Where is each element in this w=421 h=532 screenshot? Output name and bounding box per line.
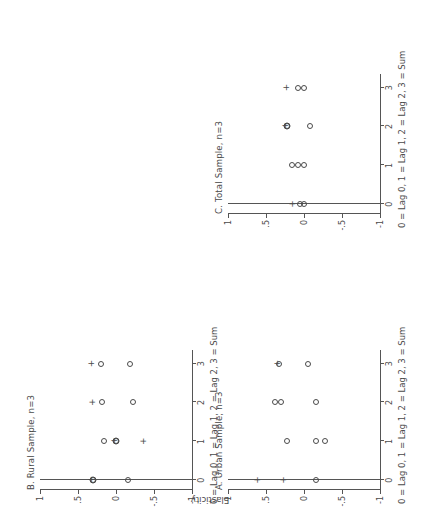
x-tick xyxy=(380,363,384,364)
x-tick xyxy=(192,479,196,480)
panel-title-total: C. Total Sample, n=3 xyxy=(214,121,224,214)
zero-reference-line xyxy=(40,479,192,480)
data-point-circle xyxy=(295,162,301,168)
x-axis-caption: 0 = Lag 0, 1 = Lag 1, 2 = Lag 2, 3 = Sum xyxy=(397,51,407,228)
panel-title-rural: B. Rural Sample, n=3 xyxy=(26,395,36,490)
y-tick-label: -.5 xyxy=(338,220,347,244)
y-tick-label: 0 xyxy=(300,220,309,244)
data-point-circleplus xyxy=(284,123,291,130)
x-tick-label: 3 xyxy=(385,361,394,366)
figure-rotation-wrapper: Elasticity A. Urban Sample, n=3 01231.50… xyxy=(0,0,421,532)
y-tick-label: .5 xyxy=(262,220,271,244)
x-tick-label: 2 xyxy=(385,124,394,129)
data-point-plus xyxy=(87,360,94,367)
data-point-circle xyxy=(322,438,328,444)
data-point-circle xyxy=(301,85,307,91)
x-tick-label: 3 xyxy=(385,85,394,90)
x-tick-label: 1 xyxy=(197,439,206,444)
y-tick-label: -.5 xyxy=(338,496,347,520)
x-tick xyxy=(192,440,196,441)
x-tick-label: 2 xyxy=(385,400,394,405)
x-tick-label: 1 xyxy=(385,439,394,444)
data-point-plus xyxy=(253,477,260,484)
data-point-plus xyxy=(282,84,289,91)
y-tick xyxy=(266,490,267,494)
plot-area-urban: 01231.50-.5-10 = Lag 0, 1 = Lag 1, 2 = L… xyxy=(228,350,380,490)
y-tick xyxy=(192,490,193,494)
x-tick-label: 0 xyxy=(385,202,394,207)
y-tick xyxy=(266,214,267,218)
x-tick xyxy=(192,363,196,364)
y-tick xyxy=(154,490,155,494)
x-tick xyxy=(380,164,384,165)
y-tick xyxy=(380,490,381,494)
y-tick xyxy=(342,214,343,218)
y-tick-label: .5 xyxy=(262,496,271,520)
data-point-circle xyxy=(307,124,313,130)
data-point-circle xyxy=(313,477,319,483)
y-tick-label: -1 xyxy=(376,220,385,244)
data-point-circleplus xyxy=(113,438,120,445)
x-axis-line xyxy=(380,74,381,214)
y-tick xyxy=(40,490,41,494)
data-point-circle xyxy=(305,361,311,367)
y-tick-label: .5 xyxy=(74,496,83,520)
x-tick xyxy=(380,87,384,88)
data-point-circle xyxy=(313,438,319,444)
y-tick xyxy=(304,490,305,494)
x-tick-label: 0 xyxy=(197,478,206,483)
y-tick xyxy=(228,214,229,218)
data-point-plus xyxy=(273,360,280,367)
data-point-plus xyxy=(89,399,96,406)
x-tick xyxy=(380,126,384,127)
x-tick-label: 0 xyxy=(385,478,394,483)
data-point-circle xyxy=(301,162,307,168)
data-point-circle xyxy=(297,201,303,207)
x-tick-label: 2 xyxy=(197,400,206,405)
y-tick-label: -1 xyxy=(376,496,385,520)
x-axis-caption: 0 = Lag 0, 1 = Lag 1, 2 = Lag 2, 3 = Sum xyxy=(209,327,219,504)
panel-total-sample: C. Total Sample, n=3 01231.50-.5-10 = La… xyxy=(228,74,380,214)
data-point-circle xyxy=(125,477,131,483)
panel-urban-sample: A. Urban Sample, n=3 01231.50-.5-10 = La… xyxy=(228,350,380,490)
data-point-plus xyxy=(288,201,295,208)
data-point-circle xyxy=(278,400,284,406)
data-point-circle xyxy=(130,400,136,406)
y-tick xyxy=(116,490,117,494)
panel-rural-sample: B. Rural Sample, n=3 01231.50-.5-10 = La… xyxy=(40,350,192,490)
x-axis-line xyxy=(380,350,381,490)
figure-canvas: Elasticity A. Urban Sample, n=3 01231.50… xyxy=(0,0,421,532)
y-tick xyxy=(78,490,79,494)
y-tick-label: 0 xyxy=(112,496,121,520)
data-point-circle xyxy=(284,438,290,444)
x-axis-line xyxy=(192,350,193,490)
x-tick xyxy=(192,402,196,403)
x-tick-label: 1 xyxy=(385,163,394,168)
y-tick-label: 1 xyxy=(224,220,233,244)
data-point-plus xyxy=(279,477,286,484)
data-point-circle xyxy=(98,361,104,367)
plot-area-rural: 01231.50-.5-10 = Lag 0, 1 = Lag 1, 2 = L… xyxy=(40,350,192,490)
data-point-plus xyxy=(140,438,147,445)
data-point-circle xyxy=(289,162,295,168)
x-tick xyxy=(380,203,384,204)
data-point-circle xyxy=(295,85,301,91)
y-tick-label: -1 xyxy=(188,496,197,520)
data-point-circle xyxy=(127,361,133,367)
x-tick xyxy=(380,440,384,441)
y-tick xyxy=(380,214,381,218)
data-point-circle xyxy=(101,438,107,444)
y-tick-label: 1 xyxy=(224,496,233,520)
y-tick-label: -.5 xyxy=(150,496,159,520)
y-tick xyxy=(342,490,343,494)
data-point-circleplus xyxy=(90,477,97,484)
y-tick xyxy=(228,490,229,494)
x-axis-caption: 0 = Lag 0, 1 = Lag 1, 2 = Lag 2, 3 = Sum xyxy=(397,327,407,504)
plot-area-total: 01231.50-.5-10 = Lag 0, 1 = Lag 1, 2 = L… xyxy=(228,74,380,214)
y-tick-label: 1 xyxy=(36,496,45,520)
data-point-circle xyxy=(313,400,319,406)
y-tick xyxy=(304,214,305,218)
x-tick xyxy=(380,479,384,480)
y-tick-label: 0 xyxy=(300,496,309,520)
data-point-circle xyxy=(272,400,278,406)
